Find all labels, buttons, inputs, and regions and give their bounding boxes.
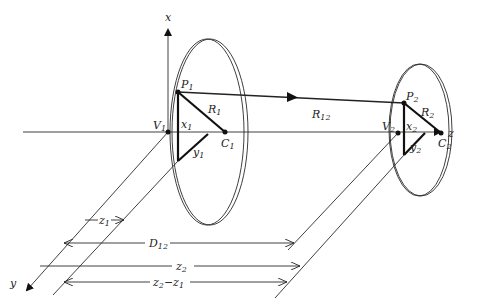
R12-arrowhead	[287, 92, 298, 102]
point-C1	[223, 130, 228, 135]
svg-text:z2−z1: z2−z1	[152, 276, 184, 290]
y-axis-label: y	[9, 277, 17, 290]
V2-label: V2	[382, 120, 395, 134]
y1-label: y1	[192, 146, 204, 160]
P2-label: P2	[405, 90, 419, 104]
svg-text:z2: z2	[175, 260, 187, 274]
x1-label: x1	[181, 118, 192, 132]
dimension-D12: D12	[64, 237, 294, 251]
P1-label: P1	[180, 78, 194, 92]
projection-line-V2	[288, 133, 398, 250]
z-axis-label: z	[447, 127, 454, 140]
loop-2	[389, 64, 452, 196]
R12-label: R12	[311, 108, 330, 122]
point-C2	[439, 131, 444, 136]
R1-label: R1	[207, 103, 221, 117]
dimension-z1: z1	[85, 214, 124, 228]
y2-label: y2	[409, 141, 421, 155]
C1-label: C1	[221, 137, 235, 151]
coaxial-loops-diagram: z x y R12 P1 R1 V1 x1 C1 y1 P2 R2 V2 x2 …	[0, 0, 501, 308]
V1-label: V1	[153, 119, 166, 133]
projection-line-P1	[53, 161, 178, 295]
projection-line-P2	[275, 155, 404, 298]
svg-text:z1: z1	[98, 214, 110, 228]
dimension-z2-minus-z1: z2−z1	[64, 276, 287, 290]
x2-label: x2	[406, 120, 417, 134]
R2-label: R2	[420, 106, 434, 120]
point-V1	[166, 130, 171, 135]
point-P1	[176, 90, 181, 95]
svg-text:D12: D12	[148, 237, 168, 251]
x-axis-label: x	[165, 11, 172, 24]
